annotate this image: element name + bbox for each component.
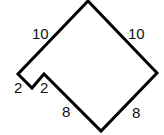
label-bottom-right-side: 8 — [132, 105, 140, 120]
label-notch-left-side: 2 — [14, 80, 22, 95]
label-notch-right-side: 2 — [40, 80, 48, 95]
label-top-right-side: 10 — [128, 26, 145, 41]
label-top-left-side: 10 — [32, 26, 49, 41]
label-bottom-left-side: 8 — [62, 104, 70, 119]
diagram-canvas: 10 10 2 2 8 8 — [0, 0, 164, 135]
